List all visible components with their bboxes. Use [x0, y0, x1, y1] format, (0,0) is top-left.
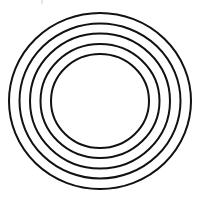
ring-4 [41, 44, 160, 158]
ring-1 [9, 13, 191, 189]
ring-2 [20, 24, 181, 179]
ring-5 [51, 54, 149, 148]
rings-drawing [0, 0, 199, 197]
concentric-rings-figure [0, 0, 199, 197]
